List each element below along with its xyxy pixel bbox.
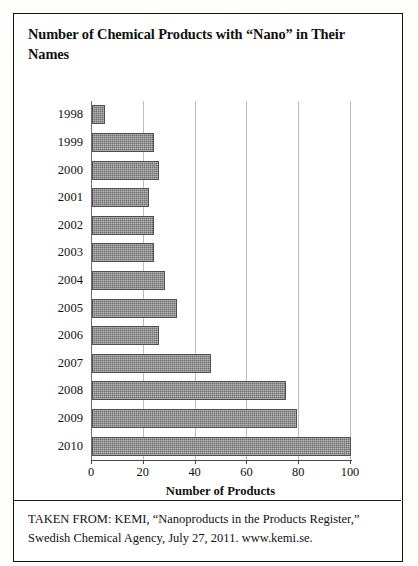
bar-2006 — [92, 326, 159, 345]
y-label-2003: 2003 — [23, 243, 83, 262]
x-tick-40 — [195, 460, 196, 464]
x-axis-line — [91, 460, 352, 461]
caption-divider — [14, 500, 401, 501]
bar-2005 — [92, 299, 177, 318]
y-label-1998: 1998 — [23, 105, 83, 124]
x-tick-label-0: 0 — [71, 465, 111, 480]
x-tick-label-20: 20 — [123, 465, 163, 480]
plot-area — [91, 101, 350, 460]
bar-2009 — [92, 409, 297, 428]
bar-2008 — [92, 381, 286, 400]
y-label-2004: 2004 — [23, 271, 83, 290]
bar-2001 — [92, 188, 149, 207]
bar-2000 — [92, 161, 159, 180]
y-label-2000: 2000 — [23, 161, 83, 180]
bar-2010 — [92, 437, 351, 456]
x-tick-60 — [246, 460, 247, 464]
bar-2003 — [92, 243, 154, 262]
gridline-60 — [246, 101, 247, 460]
source-caption: TAKEN FROM: KEMI, “Nanoproducts in the P… — [28, 510, 386, 547]
y-label-2005: 2005 — [23, 299, 83, 318]
figure-border: Number of Chemical Products with “Nano” … — [13, 13, 403, 562]
x-tick-label-80: 80 — [278, 465, 318, 480]
bar-2004 — [92, 271, 165, 290]
y-label-2001: 2001 — [23, 188, 83, 207]
y-label-1999: 1999 — [23, 133, 83, 152]
y-label-2002: 2002 — [23, 216, 83, 235]
bar-2007 — [92, 354, 211, 373]
y-label-2010: 2010 — [23, 437, 83, 456]
y-label-2008: 2008 — [23, 381, 83, 400]
gridline-40 — [195, 101, 196, 460]
x-tick-20 — [143, 460, 144, 464]
y-label-2007: 2007 — [23, 354, 83, 373]
bar-1999 — [92, 133, 154, 152]
y-label-2006: 2006 — [23, 326, 83, 345]
chart-title: Number of Chemical Products with “Nano” … — [28, 24, 380, 65]
x-axis-title: Number of Products — [91, 484, 350, 499]
figure-page: Number of Chemical Products with “Nano” … — [0, 0, 418, 566]
bar-1998 — [92, 105, 105, 124]
x-tick-0 — [91, 460, 92, 464]
x-tick-label-100: 100 — [330, 465, 370, 480]
gridline-80 — [298, 101, 299, 460]
bar-chart: 1998199920002001200220032004200520062007… — [14, 76, 400, 500]
x-tick-label-40: 40 — [175, 465, 215, 480]
y-label-2009: 2009 — [23, 409, 83, 428]
x-tick-80 — [298, 460, 299, 464]
x-tick-100 — [350, 460, 351, 464]
bar-2002 — [92, 216, 154, 235]
x-tick-label-60: 60 — [226, 465, 266, 480]
y-axis-category-labels: 1998199920002001200220032004200520062007… — [21, 101, 83, 460]
gridline-100 — [350, 101, 351, 460]
